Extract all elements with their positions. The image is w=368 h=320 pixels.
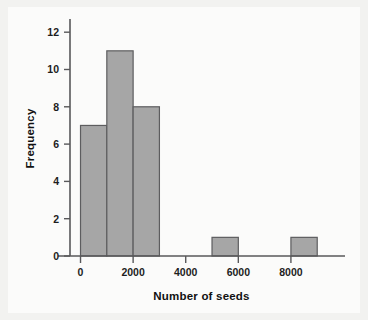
x-axis-tick-label: 0: [78, 266, 84, 278]
y-axis-tick-label: 2: [53, 213, 59, 225]
histogram-bar: [81, 125, 107, 256]
histogram-bar: [291, 237, 317, 256]
x-axis-tick-label: 8000: [279, 266, 303, 278]
histogram-bar: [107, 51, 133, 256]
histogram-bar: [212, 237, 238, 256]
y-axis-tick-label: 10: [47, 63, 59, 75]
y-axis-tick-label: 8: [53, 101, 59, 113]
x-axis-title: Number of seeds: [153, 290, 249, 302]
y-axis-title: Frequency: [24, 108, 36, 168]
x-axis-tick-label: 6000: [227, 266, 251, 278]
figure-root: the values that lie near the center of t…: [0, 0, 368, 320]
chart-panel: 02468101202000400060008000Number of seed…: [8, 7, 360, 313]
x-axis-tick-label: 4000: [174, 266, 198, 278]
y-axis-tick-label: 0: [53, 250, 59, 262]
x-axis-tick-label: 2000: [121, 266, 145, 278]
y-axis-tick-label: 12: [47, 26, 59, 38]
histogram-bar: [133, 107, 159, 256]
histogram-chart: 02468101202000400060008000Number of seed…: [8, 7, 360, 313]
y-axis-tick-label: 4: [53, 175, 59, 187]
y-axis-tick-label: 6: [53, 138, 59, 150]
